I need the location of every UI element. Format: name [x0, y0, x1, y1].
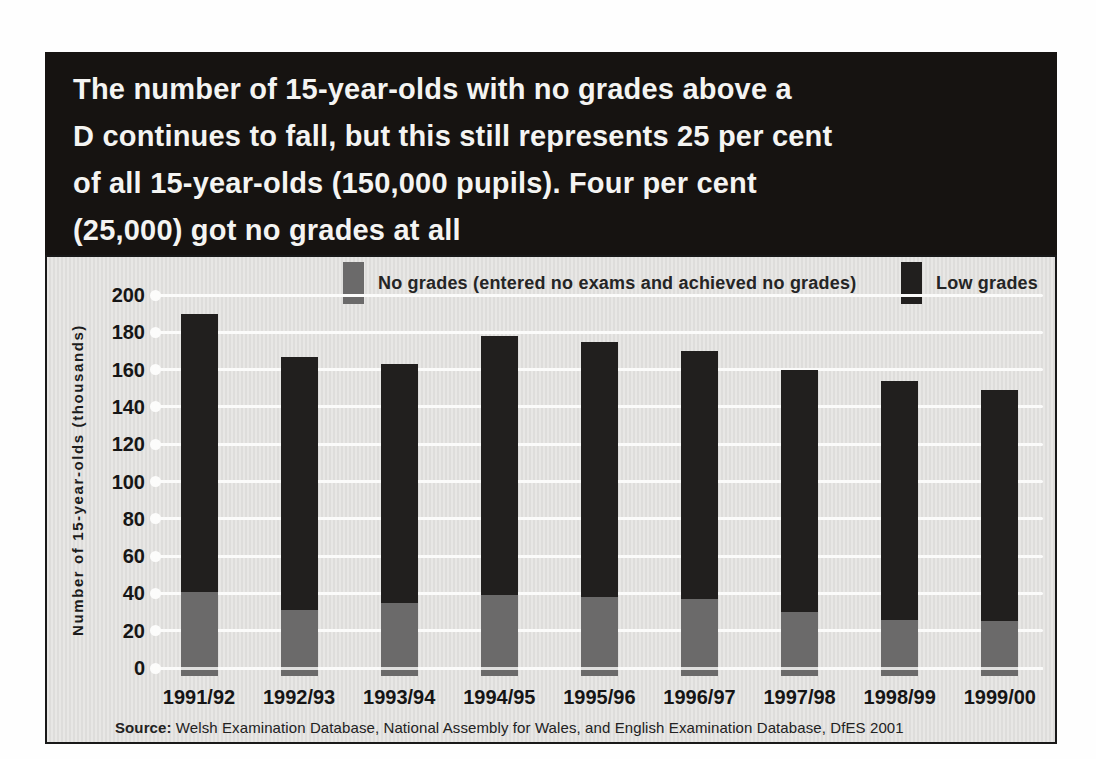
axis-dot: [150, 401, 161, 412]
y-tick-label: 160: [65, 357, 145, 383]
chart-panel: No grades (entered no exams and achieved…: [45, 255, 1057, 744]
bar-segment-no-grades: [181, 592, 218, 676]
bar: [881, 381, 918, 676]
gridline: [153, 331, 1043, 334]
bar-segment-low-grades: [181, 314, 218, 592]
x-tick-label: 1996/97: [645, 684, 755, 710]
gridline: [153, 294, 1043, 297]
axis-dot: [150, 513, 161, 524]
source-label: Source:: [115, 719, 172, 736]
headline-line: The number of 15-year-olds with no grade…: [45, 66, 1057, 113]
bar: [681, 351, 718, 676]
x-tick-label: 1997/98: [745, 684, 855, 710]
headline-line: (25,000) got no grades at all: [45, 207, 1057, 254]
bar-segment-low-grades: [681, 351, 718, 599]
y-tick-label: 60: [65, 543, 145, 569]
x-tick-label: 1995/96: [544, 684, 654, 710]
bar: [281, 357, 318, 676]
source-text: Welsh Examination Database, National Ass…: [172, 719, 904, 736]
bar: [981, 390, 1018, 676]
y-tick-label: 0: [65, 655, 145, 681]
bar-segment-no-grades: [381, 603, 418, 676]
source-line: Source: Welsh Examination Database, Nati…: [115, 719, 904, 736]
headline-line: D continues to fall, but this still repr…: [45, 113, 1057, 160]
y-tick-label: 80: [65, 506, 145, 532]
bar: [181, 314, 218, 676]
axis-dot: [150, 476, 161, 487]
bar-segment-no-grades: [681, 599, 718, 676]
axis-dot: [150, 290, 161, 301]
x-tick-label: 1992/93: [244, 684, 354, 710]
x-tick-label: 1998/99: [845, 684, 955, 710]
axis-dot: [150, 364, 161, 375]
axis-dot: [150, 588, 161, 599]
bar-segment-low-grades: [381, 364, 418, 603]
bar-segment-low-grades: [981, 390, 1018, 621]
bar-segment-low-grades: [481, 336, 518, 595]
bar: [781, 370, 818, 676]
y-tick-label: 20: [65, 618, 145, 644]
axis-dot: [150, 439, 161, 450]
headline-line: of all 15-year-olds (150,000 pupils). Fo…: [45, 160, 1057, 207]
page: The number of 15-year-olds with no grade…: [0, 0, 1096, 759]
x-tick-label: 1993/94: [344, 684, 454, 710]
bar: [481, 336, 518, 676]
y-tick-label: 100: [65, 469, 145, 495]
plot-area: 0204060801001201401601802001991/921992/9…: [47, 257, 1055, 742]
headline-block: The number of 15-year-olds with no grade…: [45, 52, 1057, 255]
axis-dot: [150, 327, 161, 338]
bar-segment-low-grades: [281, 357, 318, 611]
axis-dot: [150, 625, 161, 636]
y-tick-label: 180: [65, 319, 145, 345]
axis-dot: [150, 551, 161, 562]
bar-segment-no-grades: [581, 597, 618, 676]
y-tick-label: 140: [65, 394, 145, 420]
x-tick-label: 1999/00: [945, 684, 1055, 710]
bar: [581, 342, 618, 676]
bar-segment-low-grades: [781, 370, 818, 612]
x-tick-label: 1991/92: [144, 684, 254, 710]
x-tick-label: 1994/95: [444, 684, 554, 710]
y-tick-label: 200: [65, 282, 145, 308]
bar-segment-no-grades: [481, 595, 518, 676]
y-tick-label: 40: [65, 580, 145, 606]
bar-segment-low-grades: [581, 342, 618, 598]
bar-segment-low-grades: [881, 381, 918, 620]
zero-gridline: [153, 667, 1043, 670]
y-tick-label: 120: [65, 431, 145, 457]
bar: [381, 364, 418, 676]
